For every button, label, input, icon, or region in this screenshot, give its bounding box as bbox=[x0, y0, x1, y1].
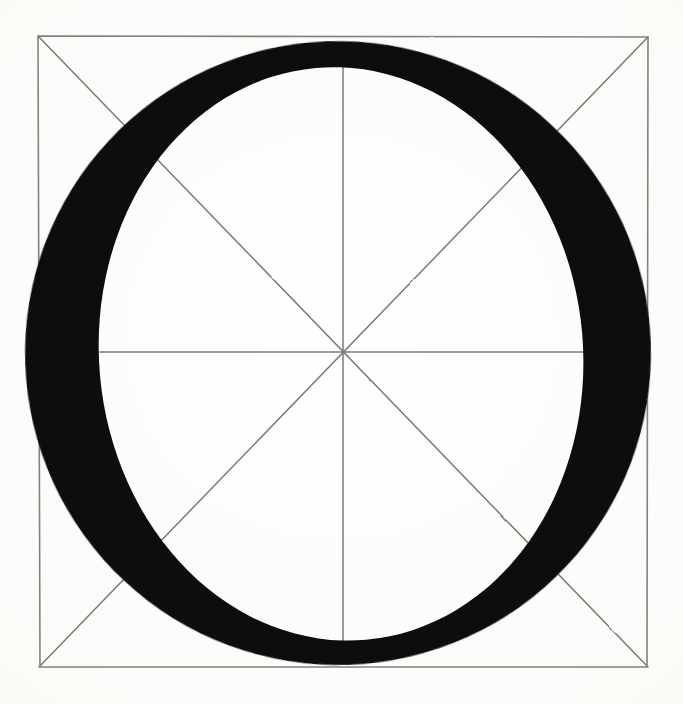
letter-o-ring bbox=[14, 30, 661, 675]
letter-construction-diagram bbox=[0, 0, 683, 704]
figure-plate: Black letter O drawn as a thick ring ins… bbox=[0, 0, 683, 704]
letter-o-glyph bbox=[14, 30, 661, 675]
